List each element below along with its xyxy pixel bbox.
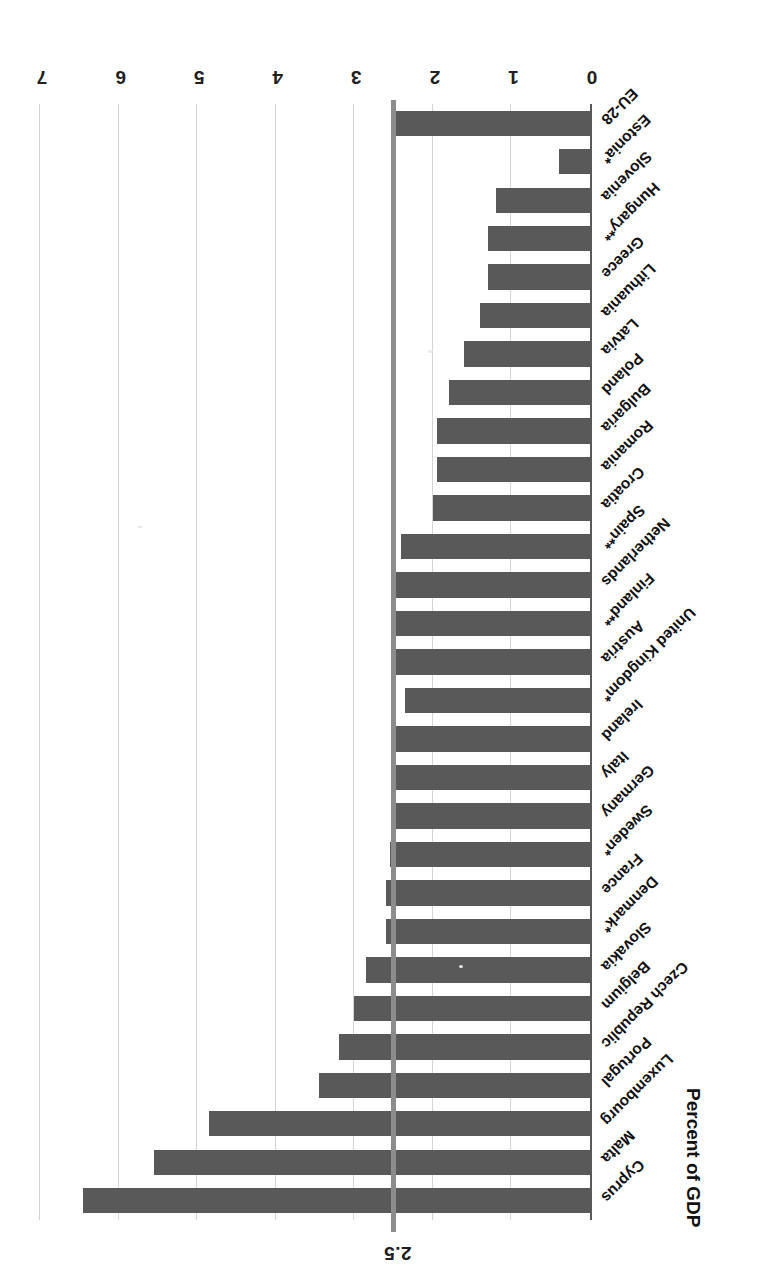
- bar: [437, 418, 590, 443]
- x-axis-title: Percent of GDP: [682, 1088, 704, 1227]
- bar: [390, 842, 590, 867]
- x-tick-label: 4: [258, 66, 298, 88]
- gridline: [275, 104, 276, 1220]
- category-label: Ireland: [598, 696, 647, 745]
- reference-line: [391, 100, 396, 1232]
- bar: [394, 803, 590, 828]
- x-tick-label: 5: [179, 66, 219, 88]
- bar: [209, 1111, 590, 1136]
- bar: [386, 880, 590, 905]
- bar: [394, 765, 590, 790]
- plot-area: [40, 104, 592, 1220]
- x-tick-label: 1: [493, 66, 533, 88]
- bar: [394, 611, 590, 636]
- bar: [433, 495, 590, 520]
- bar: [437, 457, 590, 482]
- bar: [405, 688, 590, 713]
- x-tick-label: 3: [336, 66, 376, 88]
- scan-speck: [428, 350, 433, 353]
- bar: [449, 380, 590, 405]
- bar: [83, 1188, 590, 1213]
- bar: [488, 226, 590, 251]
- bar-chart: Percent of GDP 01234567 CyprusMaltaLuxem…: [0, 0, 763, 1268]
- bar: [401, 534, 590, 559]
- bar: [339, 1034, 590, 1059]
- bar: [394, 572, 590, 597]
- scan-speck: [137, 526, 143, 528]
- bar: [319, 1073, 590, 1098]
- bar: [488, 264, 590, 289]
- x-tick-label: 2: [415, 66, 455, 88]
- bar: [394, 111, 590, 136]
- bar: [394, 726, 590, 751]
- bar: [394, 649, 590, 674]
- scan-speck: [459, 965, 463, 968]
- bar: [480, 303, 590, 328]
- gridline: [118, 104, 119, 1220]
- bar: [464, 341, 590, 366]
- bar: [386, 919, 590, 944]
- bar: [154, 1150, 590, 1175]
- bar: [366, 957, 590, 982]
- reference-line-label: 2.5: [384, 1242, 412, 1264]
- gridline: [196, 104, 197, 1220]
- x-tick-label: 6: [101, 66, 141, 88]
- scanned-chart-page: Percent of GDP 01234567 CyprusMaltaLuxem…: [0, 0, 763, 1268]
- bar: [559, 149, 590, 174]
- x-tick-label: 7: [22, 66, 62, 88]
- bar: [496, 188, 590, 213]
- gridline: [39, 104, 40, 1220]
- x-tick-label: 0: [572, 66, 612, 88]
